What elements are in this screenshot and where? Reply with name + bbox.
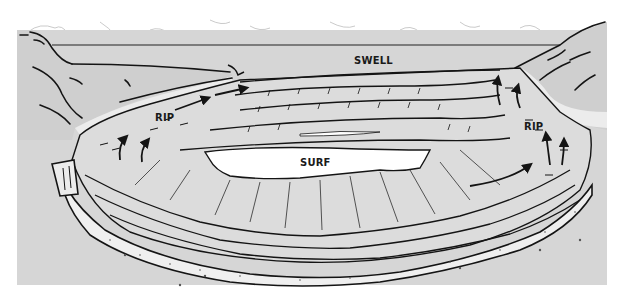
- surf-label: SURF: [300, 158, 331, 168]
- rip-label-left: RIP: [155, 113, 174, 123]
- rip-label-right: RIP: [524, 122, 543, 132]
- swell-label: SWELL: [354, 56, 393, 66]
- beach-rip-current-illustration: [0, 0, 630, 303]
